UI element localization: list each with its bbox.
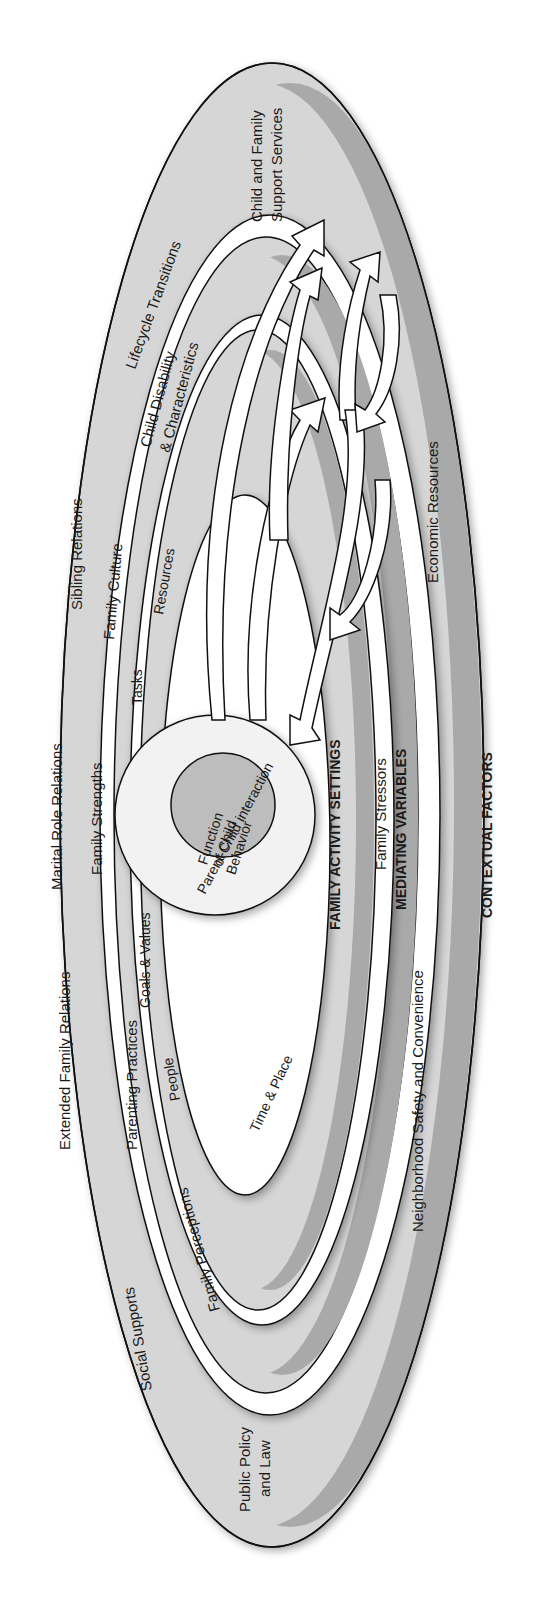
label-sibling-relations: Sibling Relations (68, 498, 85, 610)
label-marital-role: Marital Role Relations (48, 743, 65, 890)
label-family-strengths: Family Strengths (88, 762, 105, 875)
label-contextual-factors-title: CONTEXTUAL FACTORS (479, 752, 495, 918)
label-neighborhood: Neighborhood Safety and Convenience (409, 970, 426, 1232)
label-family-stressors: Family Stressors (372, 758, 389, 870)
label-family-activity-settings-title: FAMILY ACTIVITY SETTINGS (327, 739, 343, 930)
label-extended-family: Extended Family Relations (56, 972, 73, 1150)
label-economic-resources: Economic Resources (424, 441, 441, 583)
label-mediating-variables-title: MEDIATING VARIABLES (393, 749, 409, 910)
label-tasks: Tasks (129, 669, 145, 705)
label-goals-values: Goals & Values (137, 913, 153, 1008)
family-systems-diagram: Child and FamilySupport Services Lifecyc… (0, 0, 547, 1611)
label-parenting-practices: Parenting Practices (123, 1020, 140, 1150)
